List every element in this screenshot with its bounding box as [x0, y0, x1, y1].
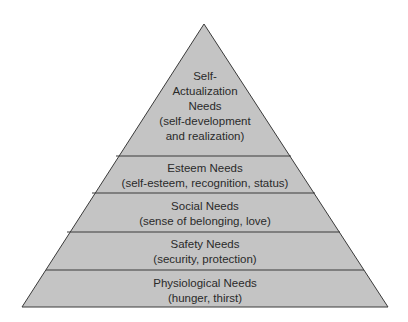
- level-title: Safety Needs: [170, 238, 239, 250]
- level-description: (self-development: [159, 115, 251, 127]
- level-title: Self-: [193, 70, 217, 82]
- level-description: (security, protection): [153, 253, 256, 265]
- level-description: (sense of belonging, love): [139, 215, 271, 227]
- level-title: Esteem Needs: [167, 162, 243, 174]
- level-title: Actualization: [172, 85, 237, 97]
- level-title: Social Needs: [171, 200, 239, 212]
- level-description: (self-esteem, recognition, status): [122, 177, 289, 189]
- pyramid-diagram: Self- Actualization Needs (self-developm…: [0, 0, 408, 322]
- level-description: and realization): [166, 130, 245, 142]
- level-description: (hunger, thirst): [168, 292, 242, 304]
- level-title: Needs: [188, 100, 221, 112]
- level-title: Physiological Needs: [153, 277, 257, 289]
